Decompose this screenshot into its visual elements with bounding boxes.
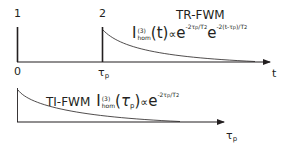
ti-fwm-title: TI-FWM [46,95,90,109]
proportional-symbol: ∝ [140,96,148,109]
pulse-1-label: 1 [14,8,21,19]
intensity-symbol: I [96,92,100,110]
hom-subscript: hom [102,103,115,109]
exp-base-2: e [207,24,216,42]
tau-p-axis-label: τp [226,130,237,143]
argument: τ [121,92,130,110]
tau-symbol: τ [226,129,233,142]
pulse-2-label: 2 [99,8,106,19]
tr-fwm-formula: I(3)hom(t)∝e-2τp/T2e-2(t-τp)/T2 [132,24,247,41]
tau-p-tick-label: τp [98,67,109,80]
tr-fwm-title: TR-FWM [176,9,225,21]
ti-fwm-formula: TI-FWMI(3)hom(τp)∝e-2τp/T2 [46,92,179,110]
exponent-2: -2(t-τp)/T2 [216,23,247,30]
super-sub-stack: (3)hom [102,96,115,109]
t-axis-label: t [272,68,276,79]
exponent: -2τp/T2 [157,91,179,98]
zero-tick-label: 0 [14,66,21,77]
tau-subscript: p [233,135,237,143]
super-sub-stack: (3)hom [137,28,150,41]
exponent-1: -2τp/T2 [185,23,207,30]
hom-subscript: hom [137,35,150,41]
exp-base: e [148,92,157,110]
tau-symbol: τ [98,66,105,79]
diagram-canvas [0,0,291,146]
intensity-symbol: I [132,24,136,42]
tau-subscript: p [105,72,109,80]
